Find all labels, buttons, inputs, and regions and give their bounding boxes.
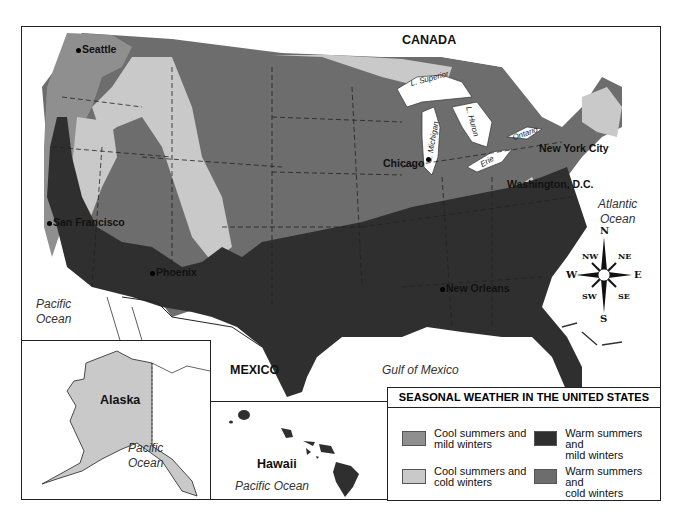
city-chicago-label: Chicago (383, 157, 424, 169)
city-san-francisco-label: San Francisco (53, 216, 125, 228)
label-mexico: MEXICO (230, 363, 279, 377)
legend-label-line2: mild winters (434, 439, 526, 450)
pacific-alaska-line1: Pacific (128, 441, 163, 456)
compass-w: W (566, 269, 577, 280)
legend-swatch (534, 431, 557, 446)
compass-n: N (600, 225, 609, 236)
city-new-orleans-label: New Orleans (446, 282, 510, 294)
legend-label-line1: Warm summers and (565, 466, 660, 488)
legend-item-warm-mild: Warm summers andmild winters (534, 428, 660, 461)
label-pacific-ocean: Pacific Ocean (36, 297, 71, 327)
legend-label-line2: mild winters (565, 450, 660, 461)
legend-label: Cool summers andcold winters (434, 466, 526, 488)
label-canada: CANADA (402, 33, 456, 47)
city-new-york: New York City (539, 142, 609, 154)
compass-sw: SW (582, 291, 597, 301)
label-atlantic-ocean: Atlantic Ocean (598, 197, 637, 227)
caribbean-islands (562, 323, 622, 345)
city-phoenix-label: Phoenix (156, 266, 197, 278)
atlantic-line1: Atlantic (598, 197, 637, 212)
city-san-francisco: San Francisco (47, 216, 125, 228)
pacific-alaska-line2: Ocean (128, 456, 163, 471)
city-dot-icon (76, 48, 81, 53)
city-washington: Washington, D.C. (507, 178, 594, 190)
pacific-line2: Ocean (36, 312, 71, 327)
alaska-graphic (22, 341, 210, 499)
legend-label: Warm summers andcold winters (565, 466, 660, 499)
legend-swatch (402, 431, 426, 446)
label-pacific-ocean-alaska: Pacific Ocean (128, 441, 163, 471)
city-phoenix: Phoenix (150, 266, 197, 278)
legend-swatch (402, 469, 426, 484)
label-pacific-ocean-hawaii: Pacific Ocean (235, 479, 309, 494)
pacific-line1: Pacific (36, 297, 71, 312)
alaska-inset: Alaska Pacific Ocean (21, 340, 211, 500)
city-seattle-label: Seattle (82, 43, 116, 55)
city-dot-icon (47, 221, 52, 226)
compass-s: S (600, 313, 607, 324)
city-seattle: Seattle (76, 43, 116, 55)
legend-label: Warm summers andmild winters (565, 428, 660, 461)
legend-label-line2: cold winters (565, 488, 660, 499)
city-chicago: Chicago (383, 157, 431, 169)
city-dot-icon (150, 271, 155, 276)
legend-item-warm-cold: Warm summers andcold winters (534, 466, 660, 499)
label-alaska: Alaska (100, 393, 140, 407)
compass-rose: N S W E NW NE SW SE (570, 225, 638, 325)
hawaii-inset: Hawaii Pacific Ocean (210, 401, 388, 500)
compass-nw: NW (582, 251, 598, 261)
city-dot-icon (440, 287, 445, 292)
legend-label-line1: Warm summers and (565, 428, 660, 450)
map-legend: SEASONAL WEATHER IN THE UNITED STATES Co… (387, 387, 661, 501)
label-hawaii: Hawaii (257, 457, 297, 471)
label-gulf-of-mexico: Gulf of Mexico (382, 363, 459, 378)
legend-title: SEASONAL WEATHER IN THE UNITED STATES (388, 388, 660, 408)
city-dot-icon (426, 157, 431, 162)
legend-label-line2: cold winters (434, 477, 526, 488)
compass-se: SE (618, 291, 630, 301)
city-new-orleans: New Orleans (440, 282, 510, 294)
compass-star-icon (570, 225, 638, 325)
legend-swatch (534, 469, 557, 484)
legend-label: Cool summers andmild winters (434, 428, 526, 450)
compass-e: E (634, 269, 642, 280)
compass-ne: NE (618, 251, 631, 261)
legend-item-cool-cold: Cool summers andcold winters (402, 466, 526, 488)
legend-item-cool-mild: Cool summers andmild winters (402, 428, 526, 450)
